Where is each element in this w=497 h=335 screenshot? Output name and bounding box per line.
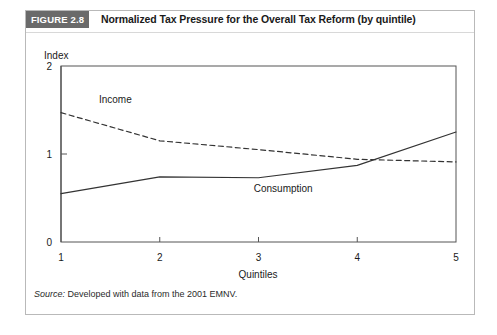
x-tick-label: 1 (58, 252, 64, 263)
line-chart: Index 012 12345 IncomeConsumption Quinti… (26, 35, 474, 290)
header-divider (26, 32, 474, 33)
source-label: Source: (34, 289, 65, 299)
y-axis-title: Index (44, 50, 68, 61)
plot-frame (61, 66, 456, 242)
figure-container: FIGURE 2.8 Normalized Tax Pressure for t… (25, 10, 475, 315)
x-tick-label: 4 (354, 252, 360, 263)
y-tick-label: 1 (46, 149, 52, 160)
chart-plot-area: Index 012 12345 IncomeConsumption Quinti… (26, 35, 474, 290)
figure-number-badge: FIGURE 2.8 (26, 11, 89, 28)
x-tick-label: 5 (453, 252, 459, 263)
x-axis-title: Quintiles (239, 269, 278, 280)
y-tick-label: 0 (46, 237, 52, 248)
series-group (61, 113, 456, 194)
figure-root: FIGURE 2.8 Normalized Tax Pressure for t… (0, 0, 497, 335)
series-annotation-consumption: Consumption (254, 183, 313, 194)
series-annotation-income: Income (99, 94, 132, 105)
y-tick-group: 012 (46, 61, 67, 248)
figure-header: FIGURE 2.8 Normalized Tax Pressure for t… (26, 11, 474, 35)
x-tick-label: 3 (256, 252, 262, 263)
source-note: Source: Developed with data from the 200… (34, 289, 237, 299)
x-tick-label: 2 (157, 252, 163, 263)
source-text: Developed with data from the 2001 EMNV. (65, 289, 237, 299)
x-tick-group: 12345 (58, 237, 459, 263)
figure-title: Normalized Tax Pressure for the Overall … (101, 13, 416, 25)
series-line-income (61, 113, 456, 162)
series-annotation-group: IncomeConsumption (99, 94, 313, 194)
y-tick-label: 2 (46, 61, 52, 72)
